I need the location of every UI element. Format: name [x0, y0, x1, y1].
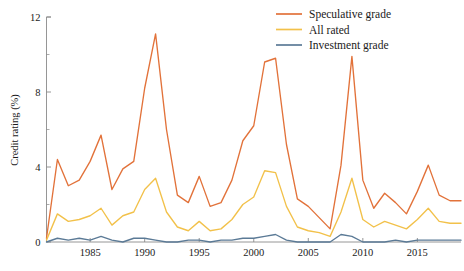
y-axis-title: Credit rating (%): [9, 94, 21, 166]
x-tick-label: 2010: [352, 247, 373, 258]
x-tick-label: 2000: [243, 247, 264, 258]
x-tick-label: 1990: [134, 247, 155, 258]
y-axis: 04812: [30, 12, 51, 248]
series-line-speculative-grade: [47, 34, 462, 238]
legend-label-1: All rated: [309, 24, 350, 36]
legend-label-2: Investment grade: [309, 39, 389, 52]
chart-plot-area: 04812 1985199019952000200520102015 Specu…: [0, 0, 464, 271]
series-lines: [47, 34, 462, 242]
y-tick-label: 12: [30, 12, 41, 23]
y-tick-label: 0: [35, 237, 40, 248]
legend-label-0: Speculative grade: [309, 8, 391, 21]
x-tick-label: 1985: [80, 247, 101, 258]
y-tick-label: 4: [35, 162, 41, 173]
x-tick-label: 1995: [189, 247, 210, 258]
y-tick-label: 8: [35, 87, 40, 98]
x-tick-label: 2005: [298, 247, 319, 258]
chart-legend: Speculative gradeAll ratedInvestment gra…: [276, 8, 391, 52]
x-tick-label: 2015: [407, 247, 428, 258]
credit-rating-line-chart: 04812 1985199019952000200520102015 Specu…: [0, 0, 464, 271]
